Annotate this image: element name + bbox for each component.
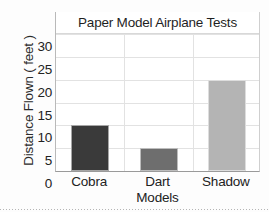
x-axis-tick-label: Shadow [192,174,260,189]
y-axis-tick-label: 5 [28,153,52,168]
bar-shadow [208,80,246,171]
y-axis-tick-label: 15 [28,107,52,122]
chart-title: Paper Model Airplane Tests [56,12,259,34]
y-axis-tick-label: 0 [28,176,52,191]
y-axis-tick-label: 10 [28,130,52,145]
y-axis-tick-label: 25 [28,61,52,76]
bar-chart-figure: Distance Flown ( feet ) 051015202530 Pap… [0,0,269,212]
bar-cobra [71,125,109,171]
plot-area: Paper Model Airplane Tests [55,12,260,172]
bar-dart [140,148,178,171]
y-axis-tick-label: 30 [28,39,52,54]
x-axis-tick-label: Cobra [55,174,123,189]
y-axis-tick-label: 20 [28,84,52,99]
x-axis-title: Models [55,190,260,205]
bars-layer [56,34,259,171]
scan-artifact-line [0,209,269,210]
x-axis-tick-label: Dart [124,174,192,189]
y-axis-tick-labels: 051015202530 [28,24,52,172]
